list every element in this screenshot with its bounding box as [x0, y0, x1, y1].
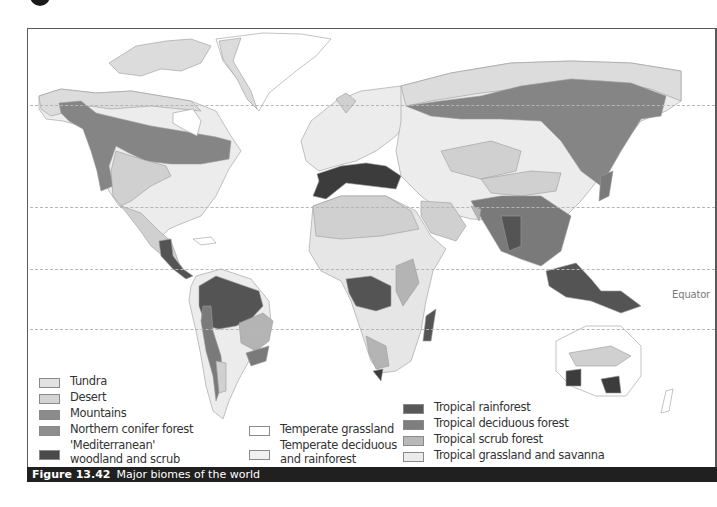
- legend-item-tropical-rainforest: Tropical rainforest: [403, 400, 530, 414]
- legend-item-tropical-scrub-forest: Tropical scrub forest: [403, 432, 543, 446]
- mountains-swatch: [39, 410, 60, 420]
- desert-swatch: [39, 394, 60, 404]
- legend-item-desert: Desert: [39, 390, 106, 404]
- savanna-swatch: [403, 452, 424, 462]
- conifer-swatch: [39, 426, 60, 436]
- temperate-deciduous-swatch: [249, 450, 270, 460]
- legend-item-tropical-grassland-savanna: Tropical grassland and savanna: [403, 448, 604, 462]
- tropical-deciduous-swatch: [403, 420, 424, 430]
- temperate-grassland-swatch: [249, 426, 270, 436]
- legend-item-mediterranean: 'Mediterranean' woodland and scrub: [39, 438, 180, 466]
- map-frame: Equator Tundra Desert Mountains Northern…: [27, 28, 717, 468]
- mediterranean-swatch: [39, 450, 60, 460]
- legend: Tundra Desert Mountains Northern conifer…: [28, 29, 717, 468]
- legend-item-temperate-deciduous: Temperate deciduous and rainforest: [249, 438, 397, 466]
- legend-item-mountains: Mountains: [39, 406, 126, 420]
- tundra-swatch: [39, 378, 60, 388]
- figure-caption: Figure 13.42Major biomes of the world: [27, 467, 717, 482]
- legend-item-temperate-grassland: Temperate grassland: [249, 422, 394, 436]
- legend-item-northern-conifer-forest: Northern conifer forest: [39, 422, 193, 436]
- figure-title: Major biomes of the world: [117, 468, 260, 481]
- chapter-marker-icon: [30, 0, 50, 6]
- legend-item-tropical-deciduous-forest: Tropical deciduous forest: [403, 416, 568, 430]
- figure-number: Figure 13.42: [32, 468, 111, 481]
- tropical-rainforest-swatch: [403, 404, 424, 414]
- legend-item-tundra: Tundra: [39, 374, 107, 388]
- tropical-scrub-swatch: [403, 436, 424, 446]
